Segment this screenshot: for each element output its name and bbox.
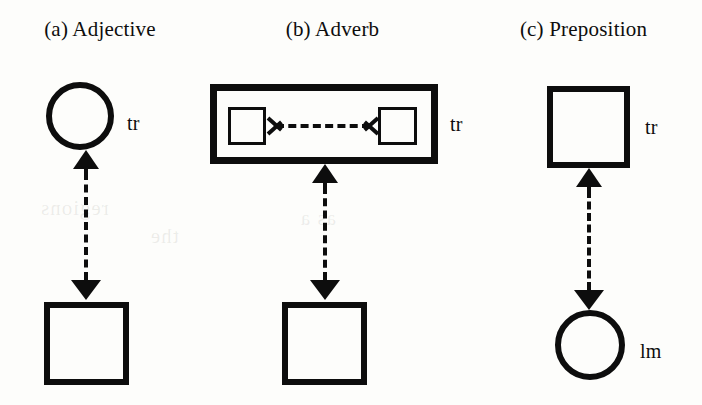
- adjective-trajector-circle: [46, 82, 114, 150]
- panel-adjective: (a) Adjective tr: [0, 0, 200, 405]
- adverb-correspondence-link: [323, 186, 327, 280]
- adjective-base-square: [44, 302, 129, 385]
- preposition-link-arrowhead-down: [574, 290, 604, 310]
- adverb-base-square: [282, 302, 367, 385]
- preposition-landmark-circle: [555, 310, 625, 380]
- adverb-inner-square-right: [378, 107, 417, 145]
- adverb-inner-square-left: [228, 107, 266, 145]
- preposition-trajector-label: tr: [645, 117, 658, 137]
- preposition-correspondence-link: [587, 190, 591, 290]
- adjective-link-arrowhead-down: [71, 280, 101, 300]
- panel-adverb: (b) Adverb tr: [200, 0, 465, 405]
- adverb-trajector-label: tr: [450, 114, 463, 134]
- panel-caption-adverb: (b) Adverb: [200, 16, 465, 42]
- adverb-inner-correspondence-link: [276, 124, 370, 128]
- panel-caption-preposition: (c) Preposition: [465, 16, 702, 42]
- panel-caption-adjective: (a) Adjective: [0, 16, 200, 42]
- panel-preposition: (c) Preposition tr lm: [465, 0, 702, 405]
- adverb-link-arrowhead-down: [310, 280, 340, 300]
- preposition-landmark-label: lm: [640, 341, 662, 361]
- adverb-inner-arrowhead-right: [360, 113, 376, 139]
- adjective-correspondence-link: [84, 172, 88, 280]
- adjective-trajector-label: tr: [127, 113, 140, 133]
- figure-canvas: regions the as a (a) Adjective tr (b) Ad…: [0, 0, 702, 405]
- preposition-trajector-square: [547, 86, 630, 168]
